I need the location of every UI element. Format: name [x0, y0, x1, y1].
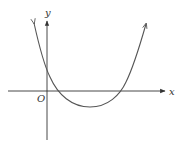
origin-label: O [37, 93, 45, 104]
parabola-graph: y x O [0, 0, 183, 146]
y-axis-label: y [44, 7, 51, 18]
x-axis-label: x [169, 86, 175, 97]
parabola-curve [34, 23, 146, 107]
